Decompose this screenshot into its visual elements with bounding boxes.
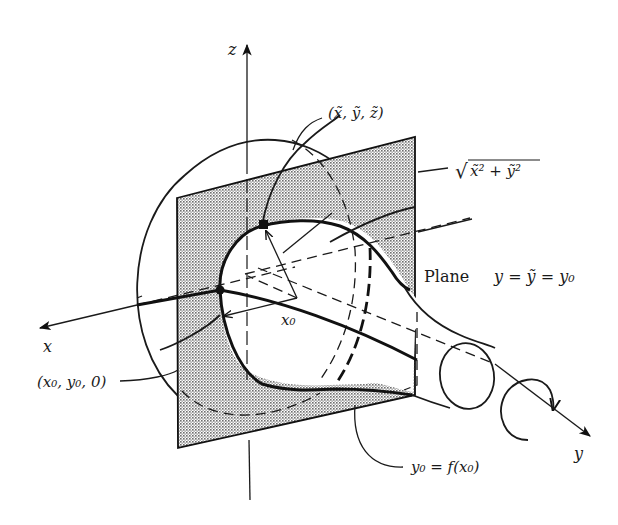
x0-label: x₀ [281,311,295,329]
z-axis-below [249,440,250,500]
surface-of-revolution-diagram: z x y (x̃, ỹ, z̃) √ x̃² + ỹ² Plane y = ỹ… [0,0,618,525]
y-axis-label: y [573,444,584,463]
curve-equation-label: y₀ = f(x₀) [410,458,479,476]
z-axis-label: z [227,40,237,59]
sqrt-symbol: √ [455,159,468,183]
flare-end-ellipse [436,340,499,413]
sqrt-radicand: x̃² + ỹ² [470,162,521,180]
point-base-marker [216,286,225,295]
leader-sqrt-line [418,219,472,232]
plane-equation-label: y = ỹ = y₀ [493,267,575,286]
leader-sqrt [418,168,448,172]
leader-curve-eq [355,405,403,467]
point-tilde-marker [259,220,268,229]
leader-point-tilde [293,118,322,150]
leader-point-base [120,370,178,381]
y-axis [495,364,590,436]
x-axis [40,305,137,328]
point-tilde-label: (x̃, ỹ, z̃) [328,104,384,122]
point-base-label: (x₀, y₀, 0) [37,373,106,391]
x-axis-label: x [43,337,52,356]
surface-flare-bottom [412,395,450,408]
plane-word-label: Plane [424,267,469,286]
